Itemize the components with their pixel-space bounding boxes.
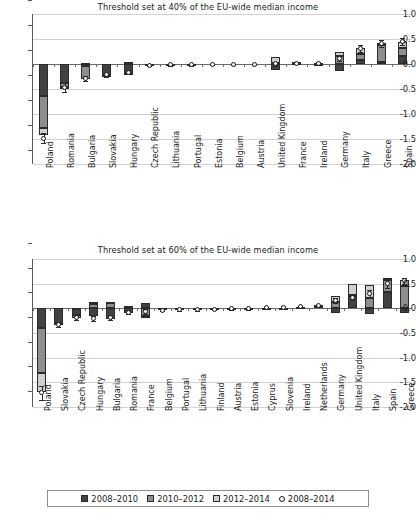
- error-bar-cap: [333, 303, 338, 304]
- overall-marker: [316, 303, 321, 308]
- y-tick-label: -0.5: [391, 84, 416, 94]
- x-axis-label: Estonia: [215, 139, 224, 168]
- overall-marker: [358, 46, 363, 51]
- overall-marker: [385, 281, 390, 286]
- gridline: [33, 39, 412, 40]
- overall-marker: [252, 62, 257, 67]
- x-tick-mark: [102, 308, 103, 311]
- chart-title-60: Threshold set at 60% of the EU-wide medi…: [0, 245, 416, 255]
- overall-marker: [62, 85, 67, 90]
- legend: 2008–20102010–20122012–20142008–2014: [47, 490, 369, 507]
- error-bar-cap: [62, 92, 67, 93]
- bar-segment: [37, 328, 46, 374]
- error-bar-cap: [337, 61, 342, 62]
- error-bar-cap: [91, 321, 96, 322]
- y-tick-label: 0.0: [391, 303, 416, 313]
- legend-swatch-icon: [81, 495, 88, 502]
- x-tick-mark: [119, 308, 120, 311]
- x-axis-label: Slovakia: [109, 134, 118, 168]
- x-tick-mark: [329, 64, 330, 67]
- gridline: [33, 259, 412, 260]
- x-axis-label: Czech Republic: [78, 350, 87, 411]
- x-tick-mark: [371, 64, 372, 67]
- legend-item: 2008–2010: [81, 494, 138, 504]
- x-tick-mark: [309, 308, 310, 311]
- error-bar-cap: [143, 314, 148, 315]
- y-tick-mark: [28, 366, 32, 367]
- y-tick-label: 0.5: [391, 279, 416, 289]
- overall-marker: [126, 310, 131, 315]
- bar-segment: [72, 308, 81, 310]
- x-axis-label: Austria: [234, 383, 243, 411]
- x-axis-label: Germany: [341, 131, 350, 168]
- bar-segment: [331, 308, 340, 313]
- x-tick-mark: [327, 308, 328, 311]
- error-bar-cap: [367, 297, 372, 298]
- x-axis-label: Portugal: [194, 135, 203, 168]
- y-tick-label: -2.0: [391, 402, 416, 412]
- x-tick-mark: [160, 64, 161, 67]
- x-tick-mark: [206, 308, 207, 311]
- bar-segment: [365, 298, 374, 308]
- x-axis-label: Poland: [44, 384, 53, 411]
- x-axis-label: Belgium: [165, 378, 174, 411]
- overall-marker: [212, 307, 217, 312]
- x-axis-label: Slovakia: [61, 377, 70, 411]
- y-tick-label: -1.0: [391, 109, 416, 119]
- bar-segment: [81, 63, 90, 65]
- bar-segment: [124, 62, 133, 65]
- y-tick-label: -2.0: [391, 159, 416, 169]
- x-tick-mark: [50, 308, 51, 311]
- bar-segment: [356, 60, 365, 65]
- gridline: [33, 89, 412, 90]
- x-tick-mark: [258, 308, 259, 311]
- error-bar-cap: [350, 300, 355, 301]
- y-tick-label: -1.5: [391, 134, 416, 144]
- x-axis-label: Belgium: [236, 135, 245, 168]
- overall-marker: [281, 305, 286, 310]
- x-tick-mark: [244, 64, 245, 67]
- x-axis-label: France: [147, 384, 156, 411]
- overall-marker: [83, 76, 88, 81]
- x-axis-label: Czech Republic: [151, 107, 160, 168]
- bar-segment: [348, 284, 357, 295]
- bar-segment: [377, 45, 386, 62]
- y-tick-mark: [28, 100, 32, 101]
- x-axis-label: Romania: [130, 376, 139, 411]
- x-axis-label: Hungary: [96, 377, 105, 411]
- bar-segment: [60, 64, 69, 83]
- x-tick-mark: [33, 64, 34, 67]
- x-tick-mark: [171, 308, 172, 311]
- legend-label: 2012–2014: [223, 494, 270, 504]
- legend-label: 2008–2010: [91, 494, 138, 504]
- y-tick-mark: [28, 243, 32, 244]
- chart-title-40: Threshold set at 40% of the EU-wide medi…: [0, 2, 416, 12]
- y-tick-mark: [28, 342, 32, 343]
- x-tick-mark: [54, 64, 55, 67]
- x-axis-label: Netherlands: [320, 362, 329, 411]
- bar-segment: [365, 308, 374, 314]
- overall-marker: [316, 61, 321, 66]
- x-axis-label: Austria: [257, 140, 266, 168]
- y-tick-mark: [28, 268, 32, 269]
- x-tick-mark: [96, 64, 97, 67]
- y-tick-label: 1.0: [391, 9, 416, 19]
- overall-marker: [231, 62, 236, 67]
- bar-segment: [39, 96, 48, 129]
- overall-marker: [126, 70, 131, 75]
- bar-segment: [39, 64, 48, 96]
- error-bar-cap: [400, 45, 405, 46]
- x-axis-label: Cyprus: [268, 383, 277, 411]
- x-tick-mark: [361, 308, 362, 311]
- y-tick-label: -1.5: [391, 377, 416, 387]
- y-tick-label: 0.5: [391, 34, 416, 44]
- y-tick-mark: [28, 25, 32, 26]
- x-axis-label: Bulgaria: [88, 135, 97, 168]
- x-axis-label: Ireland: [303, 383, 312, 411]
- overall-marker: [147, 63, 152, 68]
- bar-segment: [89, 304, 98, 308]
- error-bar-cap: [108, 320, 113, 321]
- x-tick-mark: [307, 64, 308, 67]
- y-tick-mark: [28, 317, 32, 318]
- bar-segment: [124, 306, 133, 308]
